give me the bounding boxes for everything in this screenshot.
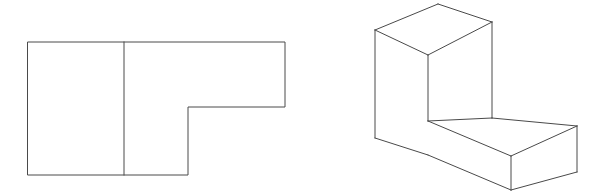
orthographic-top-view: [28, 42, 285, 175]
isometric-pictorial-view: [375, 4, 577, 190]
drawing-sheet: [0, 0, 612, 196]
iso-edge-bottom-left: [375, 138, 428, 155]
technical-drawing-canvas: [0, 0, 612, 196]
orthographic-outline-fill: [28, 42, 285, 175]
